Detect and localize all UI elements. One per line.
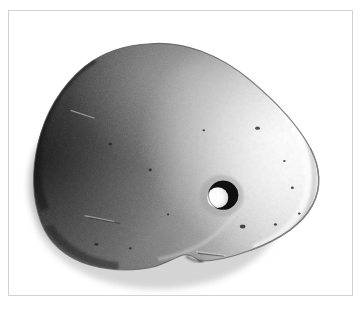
photo-plate [0,0,362,320]
drilled-hole [200,175,244,217]
artifact-photograph-canvas [9,11,352,295]
hole-bore-light [207,187,228,208]
photo-frame [8,10,353,296]
artifact-photograph [9,11,352,295]
